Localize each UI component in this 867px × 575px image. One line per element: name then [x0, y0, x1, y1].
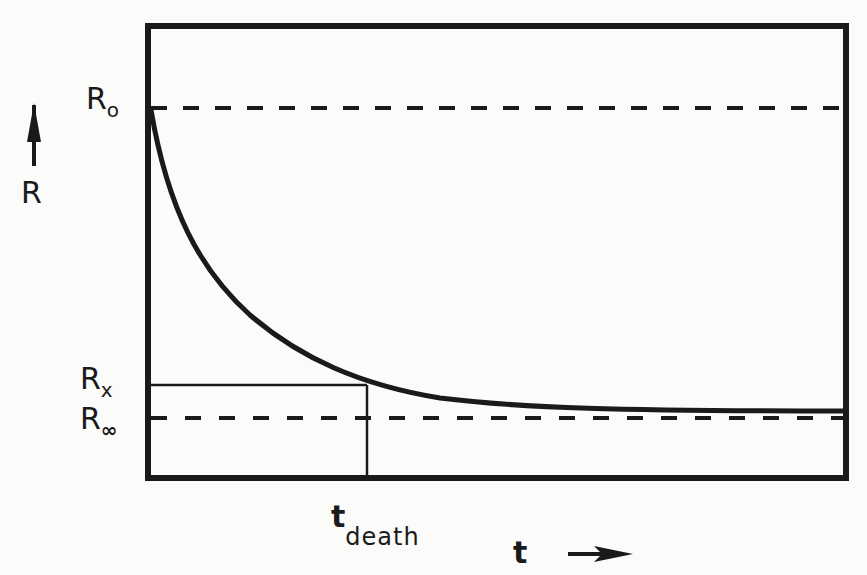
rx-label: Rx [80, 364, 113, 394]
y-axis-label: R [21, 178, 42, 208]
rinf-sub-text: ∞ [101, 418, 118, 442]
rinf-label: R∞ [80, 404, 118, 434]
rx-main-text: R [80, 361, 101, 396]
tdeath-sub-text: death [345, 523, 419, 551]
y-arrow-icon [27, 103, 41, 166]
decay-curve [151, 110, 843, 411]
tdeath-label: tdeath [331, 502, 420, 532]
decay-diagram [0, 0, 867, 575]
r0-sub-text: o [107, 98, 119, 122]
rx-sub-text: x [101, 378, 113, 402]
tdeath-main-text: t [331, 499, 345, 534]
rinf-main-text: R [80, 401, 101, 436]
r0-label: Ro [86, 84, 119, 114]
x-arrow-icon [568, 546, 633, 562]
r0-main-text: R [86, 81, 107, 116]
x-axis-label: t [513, 538, 527, 568]
